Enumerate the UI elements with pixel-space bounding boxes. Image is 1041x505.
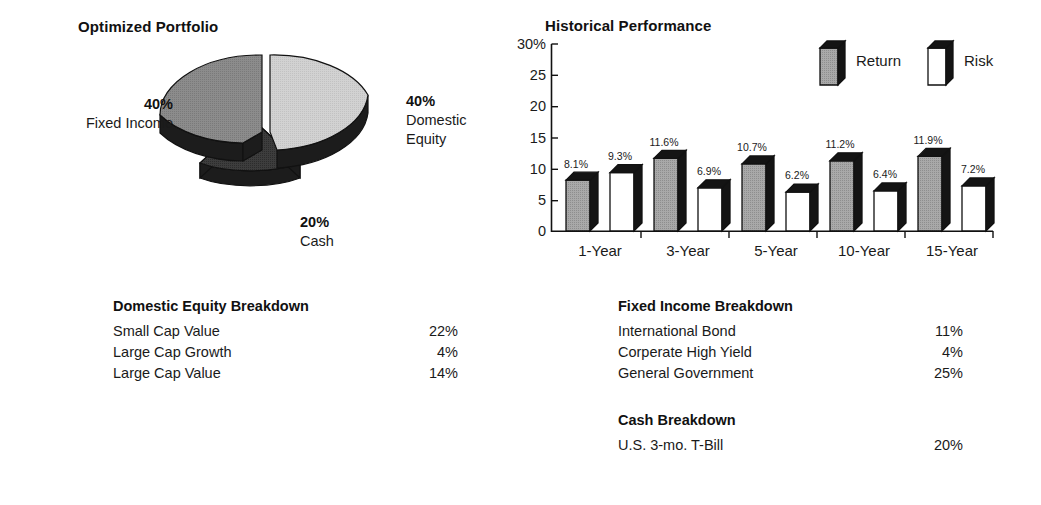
pie-label-cash-pct: 20% [300,213,420,232]
bar-return-5-year [742,156,774,231]
bar-value-return-10-year: 11.2% [810,138,870,150]
bar-value-return-3-year: 11.6% [634,136,694,148]
bar-risk-1-year [610,165,642,231]
domestic-equity-breakdown-table: Domestic Equity Breakdown Small Cap Valu… [113,298,458,386]
row-label: General Government [618,365,753,381]
legend-swatch-return [820,41,845,85]
bar-risk-5-year [786,184,818,231]
table-row: General Government 25% [618,365,963,386]
bar-risk-15-year [962,178,994,231]
pie-slice-fixed-income [160,55,262,161]
bar-return-10-year [830,153,862,231]
row-label: Large Cap Value [113,365,221,381]
bar-value-risk-15-year: 7.2% [943,163,1003,175]
optimized-portfolio-panel: Optimized Portfolio [0,0,500,275]
row-value: 4% [903,344,963,360]
historical-performance-panel: Historical Performance [500,0,1041,275]
y-tick-label-0: 0 [500,223,546,239]
bar-value-risk-5-year: 6.2% [767,169,827,181]
pie-svg [150,45,390,230]
table-row: International Bond 11% [618,323,963,344]
table-row: Corperate High Yield 4% [618,344,963,365]
bar-chart-axes [500,0,1041,275]
bar-value-return-15-year: 11.9% [898,134,958,146]
y-tick-label-20: 20 [500,98,546,114]
y-tick-label-25: 25 [500,67,546,83]
pie-label-cash: 20% Cash [300,213,420,251]
row-label: U.S. 3-mo. T-Bill [618,437,723,453]
cash-breakdown-heading: Cash Breakdown [618,412,963,428]
bar-value-return-5-year: 10.7% [722,141,782,153]
row-value: 20% [903,437,963,453]
legend-swatch-risk [928,41,953,85]
row-value: 25% [903,365,963,381]
x-tick-label-3-year: 3-Year [640,242,736,259]
x-tick-label-15-year: 15-Year [904,242,1000,259]
x-axis-ticks [641,231,993,238]
pie-label-cash-name: Cash [300,232,420,251]
bar-return-1-year [566,172,598,231]
bar-return-3-year [654,150,686,231]
row-value: 11% [903,323,963,339]
row-value: 22% [398,323,458,339]
y-tick-label-10: 10 [500,161,546,177]
row-label: Large Cap Growth [113,344,231,360]
bar-value-risk-10-year: 6.4% [855,168,915,180]
table-row: Small Cap Value 22% [113,323,458,344]
row-label: Corperate High Yield [618,344,752,360]
pie-chart-title: Optimized Portfolio [78,18,218,35]
cash-breakdown-table: Cash Breakdown U.S. 3-mo. T-Bill 20% [618,412,963,458]
bar-risk-3-year [698,180,730,231]
x-tick-label-1-year: 1-Year [552,242,648,259]
table-row: Large Cap Growth 4% [113,344,458,365]
bar-risk-10-year [874,183,906,231]
domestic-equity-breakdown-heading: Domestic Equity Breakdown [113,298,458,314]
x-tick-label-5-year: 5-Year [728,242,824,259]
legend-label-risk: Risk [964,52,993,69]
pie-label-fixed-income-name: Fixed Income [28,114,173,133]
pie-label-fixed-income: 40% Fixed Income [28,95,173,133]
legend-label-return: Return [856,52,901,69]
bar-return-15-year [918,148,950,231]
bar-value-risk-3-year: 6.9% [679,165,739,177]
table-row: Large Cap Value 14% [113,365,458,386]
bar-value-risk-1-year: 9.3% [592,150,648,162]
pie-slice-domestic-equity [270,55,368,168]
pie-label-fixed-income-pct: 40% [28,95,173,114]
row-label: International Bond [618,323,736,339]
portfolio-pie-chart [150,45,390,230]
y-axis-ticks [552,44,559,201]
row-value: 4% [398,344,458,360]
row-value: 14% [398,365,458,381]
row-label: Small Cap Value [113,323,220,339]
table-row: U.S. 3-mo. T-Bill 20% [618,437,963,458]
y-tick-label-5: 5 [500,192,546,208]
fixed-income-breakdown-table: Fixed Income Breakdown International Bon… [618,298,963,386]
x-tick-label-10-year: 10-Year [816,242,912,259]
y-tick-label-15: 15 [500,130,546,146]
y-tick-label-30: 30% [500,36,546,52]
fixed-income-breakdown-heading: Fixed Income Breakdown [618,298,963,314]
